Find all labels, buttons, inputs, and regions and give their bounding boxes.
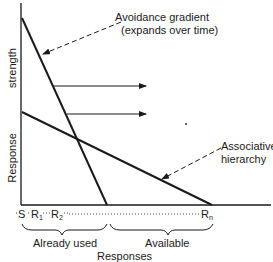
brace-label-available: Available (145, 237, 189, 249)
brace-already-used (22, 224, 107, 235)
associative-annotation-line1: Associative (221, 140, 273, 152)
avoidance-gradient-line (22, 18, 107, 205)
avoidance-annotation-line1: Avoidance gradient (115, 11, 209, 23)
y-axis-label-response: Response (6, 132, 18, 184)
associative-annotation-line2: hierarchy (221, 153, 266, 165)
seq-r2: R2 (51, 208, 63, 224)
seq-rn-sub: n (209, 214, 213, 221)
brace-label-already-used: Already used (33, 237, 97, 249)
x-axis-label: Responses (97, 250, 152, 262)
seq-r2-letter: R (51, 208, 59, 220)
seq-r1: R1 (31, 208, 43, 224)
seq-s: S (18, 208, 26, 220)
avoidance-annotation-line2: (expands over time) (121, 24, 218, 36)
seq-r2-sub: 2 (59, 214, 63, 221)
y-axis-label-strength: strength (6, 44, 18, 92)
brace-available (110, 224, 213, 235)
seq-r1-letter: R (31, 208, 39, 220)
seq-rn-letter: R (201, 208, 209, 220)
stray-dot (185, 123, 187, 125)
seq-rn: Rn (201, 208, 213, 224)
avoidance-pointer-arrow (43, 22, 121, 54)
associative-pointer-arrow (162, 148, 221, 179)
seq-r1-sub: 1 (39, 214, 43, 221)
associative-hierarchy-line (22, 112, 212, 205)
